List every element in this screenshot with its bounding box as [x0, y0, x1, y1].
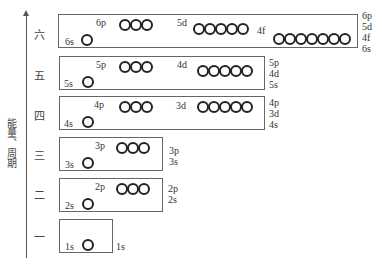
filling-order-6: 6p 5d 4f 6s: [362, 10, 372, 54]
filling-order-4: 4p 3d 4s: [269, 97, 279, 130]
orbital-4f: [273, 33, 350, 45]
orbital-circle-icon: [138, 142, 150, 154]
order-item: 3p: [169, 145, 179, 156]
orbital-circle-icon: [82, 239, 94, 251]
orbital-circle-icon: [339, 33, 351, 45]
order-item: 6s: [362, 43, 372, 54]
orbital-circle-icon: [141, 101, 153, 113]
orbital-4s: [82, 116, 93, 128]
orbital-5p: [119, 61, 152, 73]
order-item: 5s: [269, 79, 279, 90]
orbital-label-4p: 4p: [94, 100, 104, 110]
filling-order-2: 2p 2s: [168, 183, 178, 205]
orbital-circle-icon: [241, 101, 253, 113]
orbital-6p: [119, 19, 152, 31]
orbital-1s: [82, 239, 93, 251]
energy-axis: [26, 14, 27, 258]
orbital-label-6s: 6s: [65, 37, 74, 47]
order-item: 5d: [362, 21, 372, 32]
orbital-label-3d: 3d: [176, 101, 186, 111]
orbital-label-2p: 2p: [95, 182, 105, 192]
period-4-box: 4s 4p 3d: [59, 96, 265, 130]
orbital-label-4s: 4s: [64, 119, 73, 129]
period-2-box: 2s 2p: [59, 178, 163, 212]
orbital-5s: [82, 76, 93, 88]
orbital-5d: [193, 23, 248, 35]
orbital-3p: [116, 142, 149, 154]
orbital-label-4d: 4d: [177, 60, 187, 70]
orbital-circle-icon: [138, 183, 150, 195]
orbital-6s: [81, 34, 92, 46]
order-item: 4d: [269, 68, 279, 79]
period-label-1: 一: [34, 228, 45, 244]
orbital-circle-icon: [241, 65, 253, 77]
orbital-circle-icon: [82, 157, 94, 169]
axis-label: 能量、周期: [2, 118, 16, 168]
orbital-label-1s: 1s: [65, 242, 74, 252]
orbital-circle-icon: [81, 34, 93, 46]
orbital-label-5s: 5s: [64, 79, 73, 89]
period-3-box: 3s 3p: [59, 137, 163, 171]
period-label-6: 六: [34, 26, 45, 42]
period-label-4: 四: [34, 107, 45, 123]
order-item: 4s: [269, 119, 279, 130]
orbital-circle-icon: [141, 19, 153, 31]
filling-order-3: 3p 3s: [169, 145, 179, 167]
order-item: 4f: [362, 32, 372, 43]
orbital-label-5p: 5p: [96, 60, 106, 70]
order-item: 6p: [362, 10, 372, 21]
orbital-label-4f: 4f: [257, 26, 265, 36]
period-1-box: 1s: [59, 219, 113, 253]
order-item: 2s: [168, 194, 178, 205]
period-label-3: 三: [34, 147, 45, 163]
order-item: 3s: [169, 156, 179, 167]
order-item: 2p: [168, 183, 178, 194]
orbital-3s: [82, 157, 93, 169]
period-label-5: 五: [34, 67, 45, 83]
orbital-label-2s: 2s: [65, 201, 74, 211]
period-6-box: 6s 6p 5d 4f: [58, 14, 358, 48]
filling-order-1: 1s: [116, 241, 125, 252]
orbital-2s: [82, 198, 93, 210]
orbital-label-6p: 6p: [96, 18, 106, 28]
orbital-3d: [197, 101, 252, 113]
orbital-4p: [119, 101, 152, 113]
order-item: 4p: [269, 97, 279, 108]
orbital-2p: [116, 183, 149, 195]
orbital-circle-icon: [82, 116, 94, 128]
order-item: 5p: [269, 57, 279, 68]
orbital-label-5d: 5d: [177, 18, 187, 28]
period-5-box: 5s 5p 4d: [59, 56, 265, 90]
period-label-2: 二: [34, 186, 45, 202]
orbital-circle-icon: [82, 198, 94, 210]
order-item: 1s: [116, 241, 125, 252]
orbital-circle-icon: [237, 23, 249, 35]
orbital-label-3s: 3s: [65, 160, 74, 170]
orbital-4d: [197, 65, 252, 77]
order-item: 3d: [269, 108, 279, 119]
orbital-circle-icon: [141, 61, 153, 73]
filling-order-5: 5p 4d 5s: [269, 57, 279, 90]
orbital-label-3p: 3p: [95, 141, 105, 151]
orbital-circle-icon: [82, 76, 94, 88]
